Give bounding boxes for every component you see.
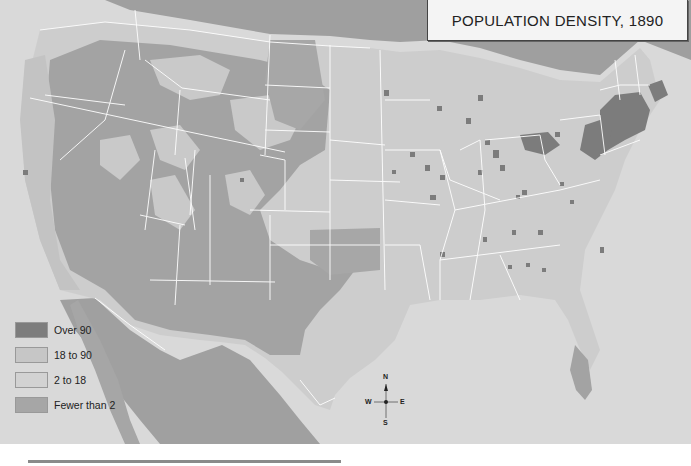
map-title: POPULATION DENSITY, 1890: [452, 12, 664, 29]
compass-north: N: [383, 373, 388, 380]
compass-rose-icon: N S E W: [364, 372, 408, 428]
legend-label: 18 to 90: [54, 349, 92, 361]
legend-label: Fewer than 2: [54, 399, 115, 411]
legend-swatch-fewer-than-2: [15, 397, 48, 413]
legend-swatch-2-to-18: [15, 372, 48, 388]
legend-label: Over 90: [54, 324, 91, 336]
legend-swatch-18-to-90: [15, 347, 48, 363]
legend-item-over-90: Over 90: [15, 317, 115, 342]
compass-east: E: [400, 398, 405, 405]
map-legend: Over 90 18 to 90 2 to 18 Fewer than 2: [15, 317, 115, 417]
legend-item-2-to-18: 2 to 18: [15, 367, 115, 392]
legend-label: 2 to 18: [54, 374, 86, 386]
legend-item-18-to-90: 18 to 90: [15, 342, 115, 367]
bottom-divider-rule: [28, 460, 341, 463]
legend-swatch-over-90: [15, 322, 48, 338]
legend-item-fewer-than-2: Fewer than 2: [15, 392, 115, 417]
compass-west: W: [365, 398, 372, 405]
compass-south: S: [383, 419, 388, 426]
map-title-box: POPULATION DENSITY, 1890: [427, 0, 688, 41]
